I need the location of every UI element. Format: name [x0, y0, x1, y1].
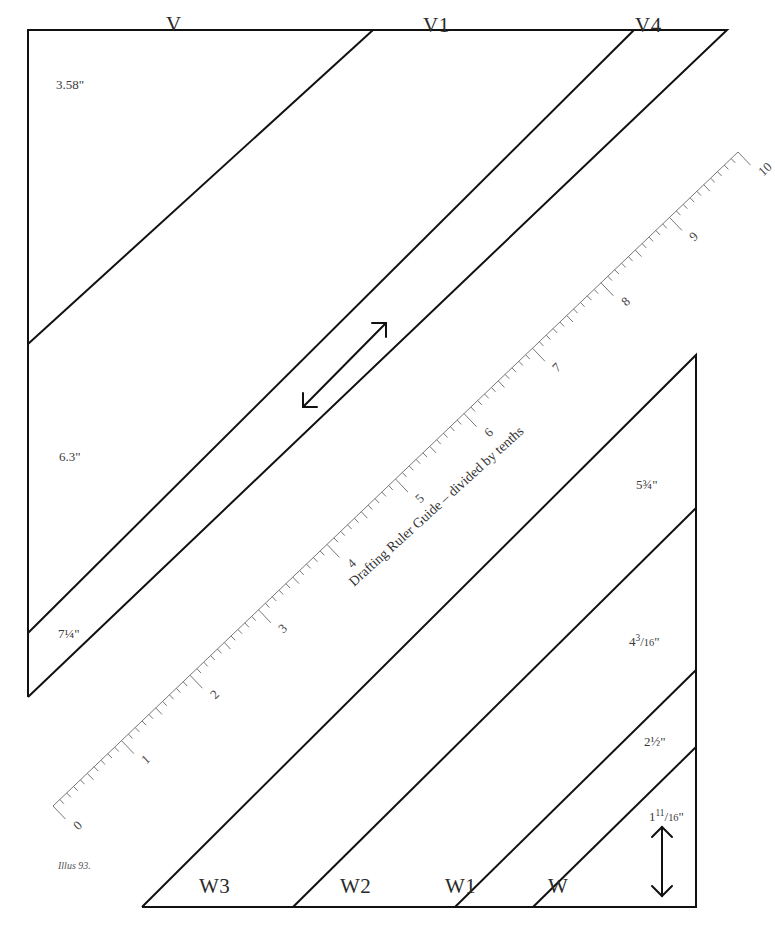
ruler-minor-tick [519, 361, 523, 365]
ruler-number: 10 [755, 159, 775, 180]
measurement-w1: 43/16" [629, 634, 660, 650]
illustration-caption: Illus 93. [58, 860, 91, 871]
ruler-minor-tick [60, 799, 64, 803]
ruler-major-tick [601, 283, 613, 296]
ruler-minor-tick [87, 773, 93, 780]
region-label-w2: W2 [340, 874, 371, 899]
ruler-minor-tick [443, 433, 447, 437]
ruler-minor-tick [231, 636, 235, 640]
measurement-v: 3.58" [56, 77, 84, 93]
ruler-minor-tick [354, 518, 358, 522]
ruler-minor-tick [348, 525, 352, 529]
ruler-minor-tick [389, 486, 393, 490]
ruler-major-tick [122, 741, 134, 754]
ruler-minor-tick [649, 237, 653, 241]
divider-v1-v4 [28, 30, 634, 633]
ruler-minor-tick [313, 557, 317, 561]
ruler-minor-tick [594, 289, 598, 293]
ruler-minor-tick [676, 211, 680, 215]
ruler-minor-tick [539, 342, 543, 346]
region-label-v4: V4 [635, 13, 662, 38]
measurement-v1: 6.3" [59, 449, 81, 465]
ruler-major-tick [533, 348, 545, 361]
ruler-minor-tick [553, 329, 557, 333]
ruler-minor-tick [217, 649, 221, 653]
ruler-minor-tick [272, 597, 276, 601]
ruler-minor-tick [286, 584, 290, 588]
ruler-minor-tick [717, 172, 721, 176]
ruler-minor-tick [245, 623, 249, 627]
measurement-w0: 2½" [644, 734, 666, 750]
ruler-minor-tick [526, 355, 530, 359]
ruler-minor-tick [306, 564, 310, 568]
ruler-major-tick [327, 544, 339, 557]
region-label-v1: V1 [423, 13, 450, 38]
ruler-minor-tick [628, 257, 632, 261]
ruler-major-tick [190, 675, 202, 688]
ruler-major-tick [259, 610, 271, 623]
ruler-minor-tick [450, 427, 454, 431]
ruler-minor-tick [402, 472, 406, 476]
ruler-minor-tick [361, 512, 367, 519]
ruler-minor-tick [711, 178, 715, 182]
ruler-minor-tick [683, 204, 687, 208]
ruler-minor-tick [300, 571, 304, 575]
top-block-outline [28, 30, 727, 697]
ruler-minor-tick [656, 230, 660, 234]
ruler-major-tick [53, 806, 65, 819]
region-label-w1: W1 [445, 874, 476, 899]
divider-w2-w1 [455, 670, 696, 907]
ruler-minor-tick [731, 159, 735, 163]
ruler-minor-tick [498, 381, 504, 388]
ruler-minor-tick [320, 551, 324, 555]
ruler-minor-tick [635, 250, 641, 257]
top-block [28, 30, 727, 697]
ruler-minor-tick [574, 309, 578, 313]
ruler-minor-tick [238, 629, 242, 633]
ruler-major-tick [670, 217, 682, 230]
ruler-minor-tick [252, 616, 256, 620]
ruler-minor-tick [183, 682, 187, 686]
ruler-minor-tick [615, 270, 619, 274]
ruler-minor-tick [663, 224, 667, 228]
ruler-minor-tick [505, 374, 509, 378]
ruler-minor-tick [74, 786, 78, 790]
ruler-minor-tick [416, 459, 420, 463]
ruler-minor-tick [67, 793, 71, 797]
ruler-minor-tick [491, 387, 495, 391]
measurement-v4: 7¼" [58, 626, 80, 642]
measurement-w: 111/16" [649, 809, 684, 825]
ruler-minor-tick [101, 760, 105, 764]
region-label-v: V [166, 12, 182, 37]
ruler-minor-tick [368, 505, 372, 509]
ruler-minor-tick [608, 276, 612, 280]
ruler-minor-tick [430, 446, 436, 453]
ruler-minor-tick [697, 191, 701, 195]
ruler-minor-tick [375, 499, 379, 503]
ruler-minor-tick [512, 368, 516, 372]
ruler-minor-tick [704, 185, 710, 192]
ruler-minor-tick [176, 688, 180, 692]
ruler-minor-tick [485, 394, 489, 398]
ruler-minor-tick [135, 728, 139, 732]
ruler-minor-tick [382, 492, 386, 496]
ruler-minor-tick [108, 754, 112, 758]
ruler-minor-tick [115, 747, 119, 751]
ruler-minor-tick [580, 302, 584, 306]
ruler-minor-tick [478, 401, 482, 405]
ruler-major-tick [396, 479, 408, 492]
ruler-minor-tick [293, 577, 299, 584]
ruler-minor-tick [642, 244, 646, 248]
ruler-minor-tick [94, 767, 98, 771]
ruler-minor-tick [163, 701, 167, 705]
ruler-minor-tick [560, 322, 564, 326]
ruler-minor-tick [197, 669, 201, 673]
ruler-minor-tick [204, 662, 208, 666]
ruler-major-tick [738, 152, 750, 165]
vertical-arrow-icon [652, 827, 672, 896]
ruler-minor-tick [169, 695, 173, 699]
ruler-minor-tick [409, 466, 413, 470]
ruler-minor-tick [546, 335, 550, 339]
ruler-minor-tick [265, 603, 269, 607]
